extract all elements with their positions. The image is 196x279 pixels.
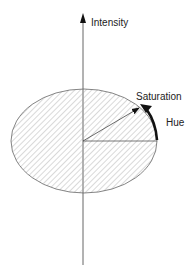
- saturation-label: Saturation: [136, 91, 182, 102]
- axis-arrowhead-icon: [80, 13, 86, 23]
- hsi-diagram: [0, 0, 196, 279]
- hue-label: Hue: [166, 117, 184, 128]
- intensity-label: Intensity: [91, 17, 128, 28]
